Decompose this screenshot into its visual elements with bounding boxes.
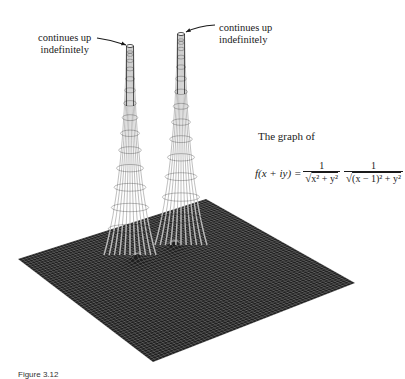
formula: f(x + iy) = 1 x² + y² 1 (x − 1)² + y² <box>255 160 405 185</box>
fraction-2: 1 (x − 1)² + y² <box>344 160 403 185</box>
graph-caption: The graph of <box>258 130 315 142</box>
right-peak-annotation: continues up indefinitely <box>219 22 272 46</box>
formula-lhs: f(x + iy) = <box>255 167 301 179</box>
fraction-1: 1 x² + y² <box>303 160 340 185</box>
figure-caption: Figure 3.12 <box>18 370 58 379</box>
left-peak-annotation: continues up indefinitely <box>38 32 91 56</box>
